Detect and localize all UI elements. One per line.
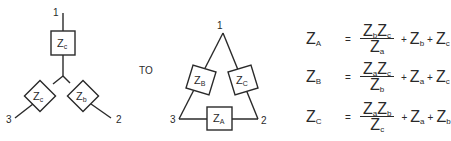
equation-term: Za	[410, 108, 424, 126]
wye-network	[15, 13, 111, 118]
equation-term: Zc	[436, 68, 450, 86]
equation-zb: ZB = ZaZc Zb + Za + Zc	[306, 62, 450, 92]
delta-node-2-label: 2	[261, 115, 267, 126]
plus-sign: +	[401, 72, 407, 83]
fraction-numerator: ZaZc	[360, 62, 394, 77]
wye-node-2-label: 2	[116, 114, 122, 125]
equation-fraction: ZaZb Zc	[360, 102, 394, 132]
equals-sign: =	[338, 34, 358, 45]
equation-term: Zb	[410, 30, 424, 48]
equation-fraction: ZaZc Zb	[360, 62, 394, 92]
wye-lead-2	[91, 104, 111, 118]
delta-node-1-label: 1	[217, 20, 223, 31]
equation-lhs: ZC	[306, 108, 338, 126]
equation-fraction: ZbZc Za	[360, 24, 394, 54]
wye-branch-left	[53, 76, 63, 84]
equals-sign: =	[338, 72, 358, 83]
fraction-denominator: Zb	[370, 77, 384, 92]
equation-zc: ZC = ZaZb Zc + Za + Zb	[306, 102, 451, 132]
wye-branch-right	[63, 76, 70, 83]
equals-sign: =	[338, 112, 358, 123]
equation-lhs: ZA	[306, 30, 338, 48]
wye-lead-3	[15, 104, 33, 118]
to-connector-label: TO	[139, 65, 153, 76]
plus-sign: +	[401, 34, 407, 45]
wye-node-3-label: 3	[6, 114, 12, 125]
plus-sign: +	[401, 112, 407, 123]
fraction-denominator: Zc	[370, 117, 384, 132]
equation-lhs: ZB	[306, 68, 338, 86]
fraction-numerator: ZbZc	[360, 24, 394, 39]
plus-sign: +	[427, 72, 433, 83]
equation-term: Zc	[436, 30, 450, 48]
equation-za: ZA = ZbZc Za + Zb + Zc	[306, 24, 450, 54]
equation-term: Zb	[436, 108, 450, 126]
plus-sign: +	[428, 112, 434, 123]
fraction-numerator: ZaZb	[360, 102, 394, 117]
wye-node-1-label: 1	[53, 7, 59, 18]
fraction-denominator: Za	[370, 39, 384, 54]
equation-term: Za	[410, 68, 424, 86]
plus-sign: +	[427, 34, 433, 45]
delta-node-3-label: 3	[170, 114, 176, 125]
